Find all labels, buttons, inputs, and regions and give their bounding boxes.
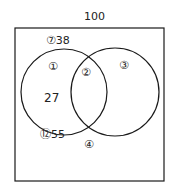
region-4-label: ④	[84, 138, 94, 151]
region-1-label: ①	[48, 60, 58, 73]
right-circle	[71, 48, 159, 136]
universe-rectangle	[15, 28, 164, 181]
venn-diagram: 100 ⑦38 ① 27 ② ③ ④ ⑫55	[0, 0, 172, 189]
left-circle	[21, 49, 107, 135]
venn-canvas: 100 ⑦38 ① 27 ② ③ ④ ⑫55	[0, 0, 172, 189]
annotation-top-left: ⑦38	[46, 34, 70, 47]
region-1-value: 27	[44, 91, 59, 105]
annotation-bottom-left: ⑫55	[40, 128, 65, 141]
region-3-label: ③	[119, 59, 129, 72]
universe-total-label: 100	[84, 10, 105, 23]
region-2-label: ②	[81, 66, 91, 79]
